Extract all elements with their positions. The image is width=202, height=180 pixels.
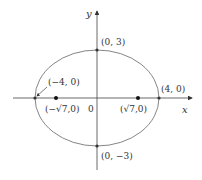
x-axis-label: x: [182, 104, 188, 115]
ellipse-diagram: y x 0 (0, 3) (0, −3) (−4, 0) (4, 0) (−√7…: [0, 0, 202, 180]
origin-label: 0: [88, 104, 94, 114]
bottom-vertex-label: (0, −3): [101, 151, 133, 161]
top-vertex-point: [95, 48, 98, 51]
left-vertex-leader-arrow: [37, 87, 47, 96]
right-vertex-label: (4, 0): [161, 84, 185, 94]
left-vertex-label: (−4, 0): [48, 77, 80, 87]
left-focus-label: (−√7,0): [45, 104, 80, 114]
right-focus-point: [136, 96, 140, 100]
left-focus-point: [54, 96, 58, 100]
top-vertex-label: (0, 3): [101, 37, 125, 47]
right-vertex-point: [157, 96, 160, 99]
left-vertex-point: [33, 96, 36, 99]
y-axis-label: y: [85, 8, 92, 19]
right-focus-label: (√7,0): [120, 104, 147, 114]
bottom-vertex-point: [95, 144, 98, 147]
